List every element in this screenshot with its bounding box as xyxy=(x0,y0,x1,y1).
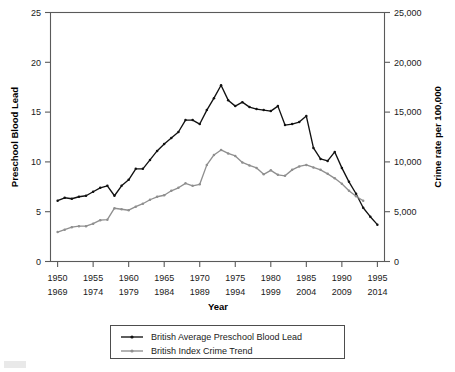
series-point-1 xyxy=(184,119,187,122)
y-axis-right-tick-label: 10,000 xyxy=(394,157,422,167)
series-point-2 xyxy=(355,195,358,198)
legend-label-2: British Index Crime Trend xyxy=(151,346,253,356)
y-axis-left-title: Preschool Blood Lead xyxy=(9,87,20,187)
x-axis-tick-label-top: 1970 xyxy=(190,273,210,283)
series-point-1 xyxy=(312,147,315,150)
series-point-1 xyxy=(106,185,109,188)
series-point-1 xyxy=(99,187,102,190)
series-point-1 xyxy=(92,191,95,194)
series-point-1 xyxy=(127,179,130,182)
x-axis-tick-label-bottom: 1969 xyxy=(48,287,68,297)
series-point-1 xyxy=(156,150,159,153)
x-axis-tick-label-bottom: 2009 xyxy=(332,287,352,297)
series-point-1 xyxy=(120,185,123,188)
series-point-2 xyxy=(85,225,88,228)
series-point-2 xyxy=(270,169,273,172)
y-axis-left-tick-label: 20 xyxy=(31,58,41,68)
series-point-2 xyxy=(149,199,152,202)
series-point-2 xyxy=(298,165,301,168)
series-point-1 xyxy=(234,105,237,108)
series-point-1 xyxy=(369,215,372,218)
series-point-1 xyxy=(191,119,194,122)
series-point-2 xyxy=(341,183,344,186)
series-point-2 xyxy=(326,173,329,176)
series-point-2 xyxy=(113,207,116,210)
series-point-2 xyxy=(198,183,201,186)
x-axis-tick-label-bottom: 1989 xyxy=(190,287,210,297)
series-point-1 xyxy=(291,123,294,126)
y-axis-left-tick-label: 10 xyxy=(31,157,41,167)
series-point-1 xyxy=(284,124,287,127)
x-axis-tick-label-bottom: 1979 xyxy=(119,287,139,297)
y-axis-right-tick-label: 0 xyxy=(394,257,399,267)
x-axis-tick-label-top: 1990 xyxy=(332,273,352,283)
series-point-2 xyxy=(99,219,102,222)
x-axis-tick-label-top: 1985 xyxy=(296,273,316,283)
series-point-1 xyxy=(277,105,280,108)
y-axis-left-tick-label: 15 xyxy=(31,107,41,117)
series-point-2 xyxy=(63,228,66,231)
y-axis-right-tick-label: 20,000 xyxy=(394,58,422,68)
series-point-2 xyxy=(78,225,81,228)
series-point-2 xyxy=(191,185,194,188)
series-point-1 xyxy=(198,123,201,126)
series-point-2 xyxy=(71,226,74,229)
series-point-2 xyxy=(135,205,138,208)
series-point-2 xyxy=(120,208,123,211)
series-point-1 xyxy=(135,168,138,171)
x-axis-tick-label-top: 1975 xyxy=(225,273,245,283)
series-point-1 xyxy=(63,197,66,200)
y-axis-left-tick-label: 25 xyxy=(31,8,41,18)
series-point-2 xyxy=(227,152,230,155)
series-point-2 xyxy=(163,194,166,197)
series-point-2 xyxy=(255,167,258,170)
dual-axis-line-chart: 0510152025 05,00010,00015,00020,00025,00… xyxy=(0,0,455,372)
x-axis-tick-label-bottom: 1994 xyxy=(225,287,245,297)
series-point-1 xyxy=(177,131,180,134)
series-point-2 xyxy=(56,231,59,234)
series-point-1 xyxy=(270,110,273,113)
series-point-2 xyxy=(291,169,294,172)
x-axis-tick-label-top: 1950 xyxy=(48,273,68,283)
series-point-1 xyxy=(362,206,365,209)
series-point-2 xyxy=(241,161,244,164)
series-point-1 xyxy=(326,160,329,163)
x-axis-tick-label-top: 1980 xyxy=(261,273,281,283)
series-point-1 xyxy=(341,167,344,170)
x-axis-tick-label-bottom: 2004 xyxy=(296,287,316,297)
series-point-2 xyxy=(213,154,216,157)
series-point-1 xyxy=(227,99,230,102)
series-point-2 xyxy=(334,177,337,180)
series-point-1 xyxy=(213,97,216,100)
series-point-2 xyxy=(106,218,109,221)
series-point-1 xyxy=(248,106,251,109)
series-point-2 xyxy=(170,190,173,193)
series-point-1 xyxy=(305,115,308,118)
y-axis-right-tick-label: 15,000 xyxy=(394,107,422,117)
series-point-1 xyxy=(71,198,74,201)
series-point-1 xyxy=(262,109,265,112)
y-axis-left-tick-label: 0 xyxy=(36,257,41,267)
x-axis-tick-label-top: 1995 xyxy=(367,273,387,283)
series-point-1 xyxy=(298,121,301,124)
series-point-2 xyxy=(305,164,308,167)
series-point-2 xyxy=(262,173,265,176)
y-axis-right-tick-label: 5,000 xyxy=(394,207,417,217)
series-point-2 xyxy=(319,169,322,172)
series-point-2 xyxy=(127,209,130,212)
series-point-2 xyxy=(206,164,209,167)
series-point-1 xyxy=(149,159,152,162)
series-point-2 xyxy=(348,190,351,193)
x-axis-tick-label-bottom: 1984 xyxy=(154,287,174,297)
series-point-1 xyxy=(255,108,258,111)
series-point-1 xyxy=(376,223,379,226)
y-axis-right-title: Crime rate per 100,000 xyxy=(432,86,443,187)
x-axis-title: Year xyxy=(208,301,228,312)
series-point-2 xyxy=(248,164,251,167)
legend-marker-dot-1 xyxy=(130,335,133,338)
series-point-2 xyxy=(284,175,287,178)
series-point-1 xyxy=(241,101,244,104)
series-point-1 xyxy=(78,196,81,199)
x-axis-tick-label-bottom: 2014 xyxy=(367,287,387,297)
series-point-2 xyxy=(177,187,180,190)
